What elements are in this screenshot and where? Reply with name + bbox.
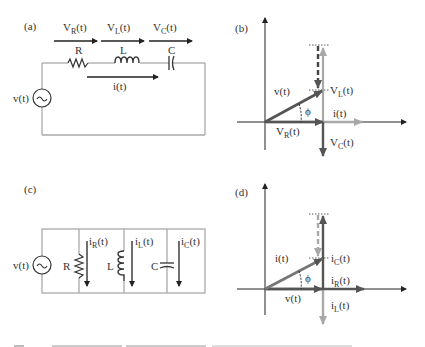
panel-d-label: (d) [235,186,248,199]
vc-phasor-label: VC(t) [330,136,354,151]
ir-label: iR(t) [89,235,108,250]
inductor-label: L [107,260,114,272]
panel-d-parallel-phasor-diagram: (d) ϕ i(t) iC(t) iR(t) v(t) iL(t) [235,184,406,324]
resistor-icon [75,254,83,278]
current-phasor [265,259,322,289]
ac-source-icon [33,89,51,107]
phase-angle-arc [299,104,301,122]
series-circuit-wires [42,63,205,135]
panel-a-label: (a) [24,20,37,33]
ac-source-icon [33,256,51,274]
vl-label: VL(t) [107,21,131,36]
ic-phasor-label: iC(t) [331,252,350,267]
panel-a-series-rlc-circuit: (a) VR(t) VL(t) VC(t) R L C [13,20,205,135]
inductor-icon [115,57,139,63]
resistor-label: R [75,44,83,56]
il-label: iL(t) [135,235,154,250]
vr-phasor-label: VR(t) [276,125,300,140]
il-phasor-label: iL(t) [331,299,350,314]
vl-phasor-label: VL(t) [330,84,354,99]
current-label: i(t) [113,80,127,93]
capacitor-label: C [168,44,175,56]
resistor-icon [68,59,88,67]
phase-angle-arc [299,271,301,289]
inductor-icon [118,251,124,281]
source-voltage-label: v(t) [13,259,29,272]
phi-label: ϕ [305,272,311,284]
panel-b-series-phasor-diagram: (b) ϕ v(t) VL(t) i(t) VR(t) VC(t) [235,18,406,156]
phi-label: ϕ [305,105,311,117]
panel-c-label: (c) [24,183,37,196]
inductor-label: L [120,44,127,56]
vc-label: VC(t) [153,21,177,36]
ir-phasor-label: iR(t) [331,274,350,289]
vt-label: v(t) [285,292,301,305]
it-label: i(t) [333,107,347,120]
vr-label: VR(t) [63,21,87,36]
vt-label: v(t) [274,85,290,98]
it-label: i(t) [275,252,289,265]
source-voltage-label: v(t) [13,92,29,105]
panel-c-parallel-rlc-circuit: (c) v(t) R L C iR(t) iL(t) iC [13,183,205,293]
resistor-label: R [63,260,71,272]
panel-b-label: (b) [235,22,248,35]
capacitor-label: C [151,260,158,272]
rlc-phasor-figure: (a) VR(t) VL(t) VC(t) R L C [0,0,425,347]
ic-label: iC(t) [181,235,200,250]
